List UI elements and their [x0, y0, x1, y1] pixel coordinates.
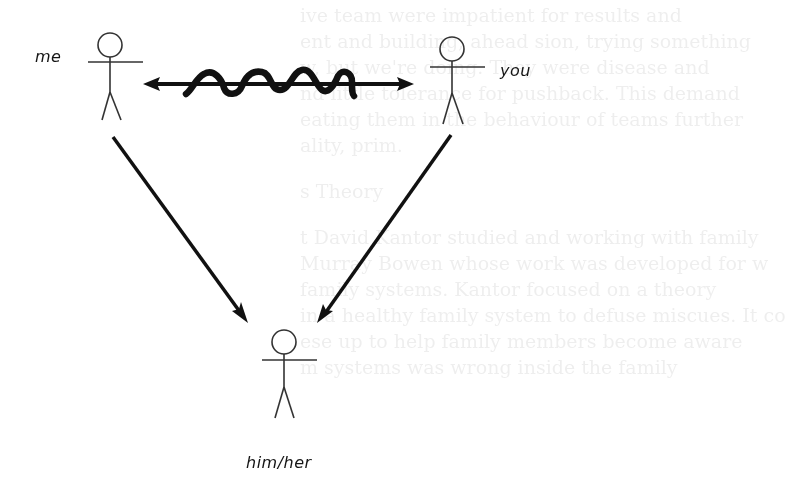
label-you: you [500, 63, 531, 79]
stick-figure-you-icon [430, 37, 485, 124]
stick-figure-him-her-icon [262, 330, 317, 418]
label-him-her: him/her [246, 455, 312, 471]
label-me: me [35, 49, 61, 65]
stick-figure-me-icon [88, 33, 143, 120]
arrow-you-to-him-her-icon [317, 135, 451, 323]
arrow-me-to-him-her-icon [113, 137, 248, 323]
